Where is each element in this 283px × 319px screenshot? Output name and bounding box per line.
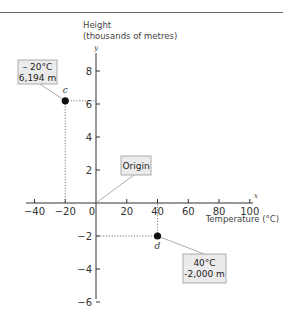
y-tick-label: 4 — [86, 132, 92, 143]
leader-line — [96, 175, 134, 203]
point-marker — [62, 97, 69, 104]
leader-line — [40, 84, 65, 101]
y-tick-label: −4 — [77, 264, 92, 275]
y-axis-title-line-2: (thousands of metres) — [83, 31, 177, 41]
x-tick-label: −40 — [24, 206, 45, 217]
callout-box-c-text: – 20°C — [23, 62, 53, 72]
y-axis-title-line-1: Height — [83, 20, 112, 30]
callout-box-origin: Origin — [121, 156, 151, 175]
y-tick-label: −2 — [77, 231, 92, 242]
callout-box-d: 40°C-2,000 m — [183, 254, 226, 283]
x-tick-label: −20 — [55, 206, 76, 217]
y-tick-label: 2 — [86, 165, 92, 176]
x-tick-label: 0 — [89, 206, 95, 217]
callout-box-c-text: 6,194 m — [19, 73, 56, 83]
annotations: Origin — [96, 156, 151, 203]
y-tick-label: 8 — [86, 66, 92, 77]
point-name: d — [155, 241, 161, 251]
point-c: c– 20°C6,194 m — [18, 60, 96, 203]
callout-box-c: – 20°C6,194 m — [18, 60, 57, 84]
leader-line — [158, 236, 205, 254]
chart-figure: Height (thousands of metres) y −40−20020… — [0, 0, 283, 319]
point-marker — [154, 232, 161, 239]
callout-box-origin-text: Origin — [122, 161, 149, 171]
callout-box-d-text: -2,000 m — [184, 269, 225, 279]
point-name: c — [63, 85, 68, 95]
x-axis-title: Temperature (°C) — [205, 214, 279, 224]
callout-box-d-text: 40°C — [193, 258, 215, 268]
x-tick-label: 20 — [120, 206, 133, 217]
y-axis-ticks: −6−4−22468 — [77, 66, 100, 308]
origin-annotation: Origin — [96, 156, 151, 203]
y-tick-label: −6 — [77, 297, 92, 308]
x-axis-letter: x — [254, 192, 258, 200]
y-axis-letter: y — [93, 44, 99, 52]
x-tick-label: 60 — [182, 206, 195, 217]
